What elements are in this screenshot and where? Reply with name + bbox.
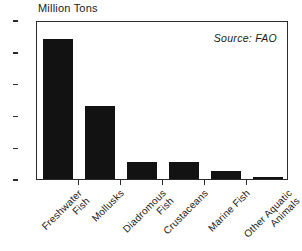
x-axis-tick-mark: [78, 180, 79, 185]
bars-layer: [37, 22, 287, 179]
y-axis-tick-mark: [13, 52, 18, 53]
y-axis-tick-mark: [13, 148, 18, 149]
bar: [85, 106, 115, 179]
bar: [127, 162, 157, 179]
bar: [211, 171, 241, 179]
x-axis-tick-label: Other Aquatic Animals: [219, 188, 302, 251]
y-axis-title: Million Tons: [38, 2, 98, 14]
x-axis-tick-mark: [204, 180, 205, 185]
plot-area: Source: FAO: [36, 21, 288, 180]
x-axis-tick-mark: [120, 180, 121, 185]
bar-chart: Million Tons Source: FAO 048121620 Fresh…: [0, 0, 302, 251]
bar: [253, 177, 283, 179]
x-axis-tick-mark: [246, 180, 247, 185]
bar: [43, 39, 73, 179]
y-axis-tick-mark: [13, 20, 18, 21]
y-axis-tick-mark: [13, 84, 18, 85]
x-axis-tick-mark: [162, 180, 163, 185]
bar: [169, 162, 199, 179]
y-axis-tick-mark: [13, 116, 18, 117]
y-axis-tick-mark: [13, 179, 18, 180]
